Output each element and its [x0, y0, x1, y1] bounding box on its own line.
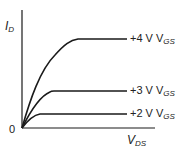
characteristic-curves-plot	[0, 0, 185, 153]
x-axis-label: VDS	[127, 134, 146, 146]
legend-label-vgs-3v: +3 V VGS	[130, 85, 175, 96]
y-axis-label: ID	[5, 20, 14, 32]
origin-label: 0	[9, 124, 15, 135]
curve-vgs-3v	[22, 91, 127, 128]
legend-label-vgs-4v: +4 V VGS	[130, 33, 175, 44]
legend-label-vgs-2v: +2 V VGS	[130, 108, 175, 119]
curve-vgs-2v	[22, 114, 127, 128]
